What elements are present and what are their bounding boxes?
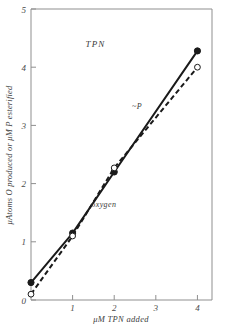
y-tick-label: 0 (22, 296, 27, 306)
x-tick-label: 1 (70, 303, 75, 313)
y-tick-label: 5 (22, 5, 27, 15)
data-point-open (70, 233, 76, 239)
y-tick-label: 3 (21, 121, 27, 131)
data-point-filled (194, 48, 200, 54)
data-point-open (111, 165, 117, 171)
x-tick-label: 3 (153, 303, 159, 313)
data-point-open (28, 291, 34, 297)
series-annotation: oxygen (91, 200, 116, 209)
data-point-filled (28, 279, 34, 285)
x-tick-label: 2 (112, 303, 117, 313)
x-axis-title: μM TPN added (92, 314, 149, 324)
y-tick-label: 4 (22, 63, 27, 73)
chart-plot: 012345 1234 TPN~Poxygen μM TPN added μAt… (0, 0, 236, 330)
series-annotation: ~P (132, 102, 142, 111)
x-tick-label: 4 (195, 303, 200, 313)
y-tick-label: 1 (22, 237, 27, 247)
y-axis-title: μAtoms O produced or μM P esterified (4, 85, 14, 226)
data-point-open (195, 64, 201, 70)
y-tick-label: 2 (22, 179, 27, 189)
plot-title: TPN (85, 39, 105, 49)
figure-container: 012345 1234 TPN~Poxygen μM TPN added μAt… (0, 0, 236, 330)
